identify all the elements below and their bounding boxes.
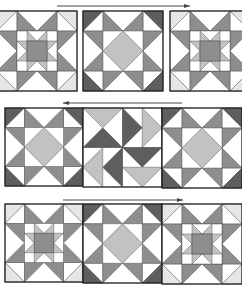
quilt-block-ohio-star: [83, 204, 162, 283]
direction-arrow-right: [57, 4, 190, 8]
direction-arrow-left: [63, 101, 182, 105]
quilt-block-star-in-star: [5, 204, 83, 282]
row-middle: [5, 101, 242, 188]
row-top: [0, 4, 242, 91]
quilt-block-ohio-star: [162, 108, 242, 188]
row-bottom: [5, 198, 242, 284]
quilt-block-ohio-star: [83, 11, 163, 91]
direction-arrow-right: [63, 198, 183, 202]
quilt-rows: [0, 4, 242, 284]
quilt-block-star-in-star: [0, 11, 77, 91]
quilt-block-ohio-star: [5, 108, 83, 186]
quilt-layout-diagram: [0, 0, 242, 296]
quilt-block-pinwheel: [83, 108, 162, 187]
quilt-block-star-in-star: [162, 204, 242, 284]
quilt-block-star-in-star: [170, 11, 242, 91]
